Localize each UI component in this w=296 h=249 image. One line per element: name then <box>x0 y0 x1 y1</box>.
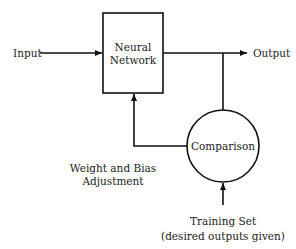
neural-network-label-line2: Network <box>110 54 157 66</box>
training-set-label-line1: Training Set <box>190 215 257 227</box>
weight-adjustment-label-line2: Adjustment <box>81 175 144 187</box>
feedback-arrow <box>134 94 187 146</box>
weight-adjustment-label-line1: Weight and Bias <box>70 162 156 174</box>
neural-network-training-diagram: Input Neural Network Output Comparison W… <box>0 0 296 249</box>
input-label: Input <box>13 47 42 59</box>
comparison-label: Comparison <box>191 140 255 152</box>
neural-network-box <box>103 13 163 93</box>
neural-network-label-line1: Neural <box>115 41 152 53</box>
output-label: Output <box>253 47 291 59</box>
training-set-label-line2: (desired outputs given) <box>161 230 285 242</box>
